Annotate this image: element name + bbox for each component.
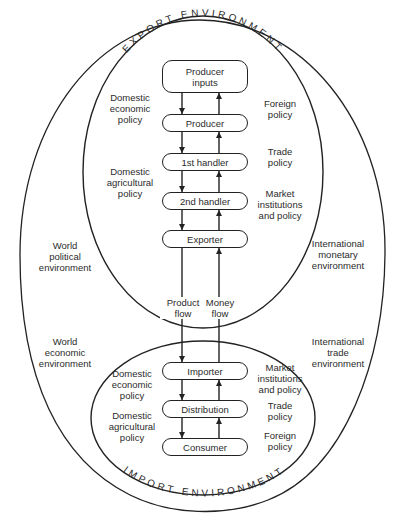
label-import-domestic-economic-policy: Domestic economic policy [97,368,167,401]
label-export-market-institutions: Market institutions and policy [244,188,316,221]
label-import-foreign-policy: Foreign policy [250,430,310,452]
trade-environment-diagram: EXPORT ENVIRONMENT IMPORT ENVIRONMENT Pr… [0,0,399,521]
label-import-trade-policy: Trade policy [250,400,310,422]
label-world-economic-environment: World economic environment [30,336,100,369]
box-exporter: Exporter [162,230,248,248]
label-world-political-environment: World political environment [30,240,100,273]
label-international-trade-environment: International trade environment [298,336,378,369]
label-money-flow: Money flow [200,297,240,319]
box-producer: Producer [162,114,248,132]
box-1st-handler: 1st handler [162,153,248,171]
box-consumer: Consumer [162,438,248,456]
label-export-trade-policy: Trade policy [250,146,310,168]
import-environment-title: IMPORT ENVIRONMENT [122,464,287,498]
label-import-domestic-agricultural-policy: Domestic agricultural policy [97,410,167,443]
box-2nd-handler: 2nd handler [162,192,248,210]
label-export-domestic-agricultural-policy: Domestic agricultural policy [95,166,165,199]
box-distribution: Distribution [162,400,248,418]
label-export-domestic-economic-policy: Domestic economic policy [95,92,165,125]
box-importer: Importer [162,362,248,380]
box-producer-inputs: Producer inputs [162,60,248,93]
export-environment-title: EXPORT ENVIRONMENT [120,7,286,55]
label-export-foreign-policy: Foreign policy [250,98,310,120]
label-international-monetary-environment: International monetary environment [298,238,378,271]
